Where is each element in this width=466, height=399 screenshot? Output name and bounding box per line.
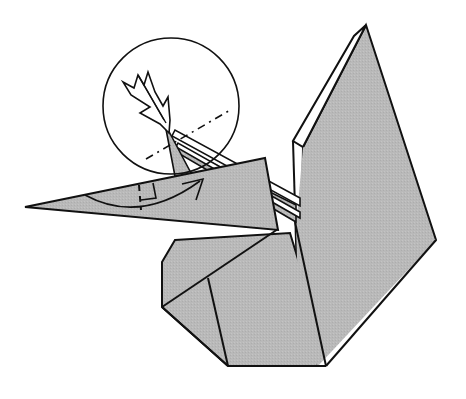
push-arrow <box>123 72 170 133</box>
origami-diagram <box>0 0 466 399</box>
head-beak <box>25 158 278 230</box>
diagram-svg <box>0 0 466 399</box>
